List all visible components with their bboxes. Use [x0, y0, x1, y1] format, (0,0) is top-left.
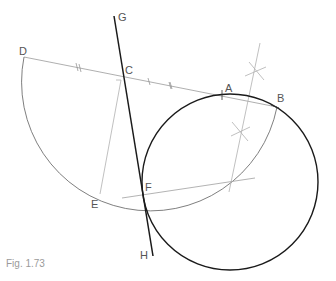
label-b: B: [277, 93, 284, 104]
label-f: F: [145, 182, 152, 193]
label-h: H: [140, 250, 148, 261]
label-e: E: [91, 199, 98, 210]
label-c: C: [125, 65, 133, 76]
tangent-line-gh: [114, 16, 153, 256]
point-b-mark: [271, 105, 279, 108]
geometry-diagram: [0, 0, 336, 281]
label-a: A: [225, 83, 232, 94]
line-ce: [100, 80, 121, 194]
line-db: [24, 57, 277, 107]
label-g: G: [118, 12, 127, 23]
figure-caption: Fig. 1.73: [6, 258, 45, 269]
label-d: D: [19, 46, 27, 57]
